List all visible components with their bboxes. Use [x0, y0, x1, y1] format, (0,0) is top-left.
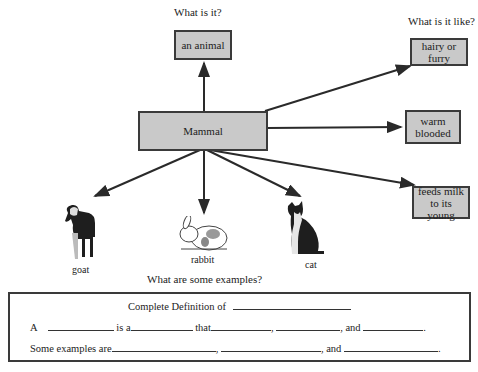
example-label-goat: goat [72, 264, 89, 275]
example-label-cat: cat [305, 259, 317, 270]
blank-example-2[interactable] [221, 342, 321, 352]
definition-that: that [195, 322, 211, 333]
comma: , [271, 322, 274, 333]
example-label-rabbit: rabbit [191, 254, 214, 265]
and-text: , and [321, 343, 341, 354]
property-box-milk: feeds milk to its young [412, 186, 470, 219]
arrow-to-goat [95, 150, 200, 196]
comma: , [216, 343, 219, 354]
goat-icon [62, 203, 98, 263]
and-text: , and [340, 322, 360, 333]
blank-subject[interactable] [48, 321, 114, 331]
period: . [438, 343, 441, 354]
question-what-is-it: What is it? [174, 6, 222, 18]
question-what-is-it-like: What is it like? [408, 15, 475, 27]
question-examples: What are some examples? [147, 273, 262, 285]
period: . [423, 322, 426, 333]
definition-box: Complete Definition of A is a that, , an… [8, 292, 471, 362]
definition-is-a: is a [116, 322, 130, 333]
blank-example-1[interactable] [112, 342, 216, 352]
examples-lead: Some examples are [30, 343, 112, 354]
blank-property-2[interactable] [276, 321, 340, 331]
center-concept-box: Mammal [138, 111, 268, 151]
property-box-hairy: hairy or furry [410, 38, 468, 66]
property-box-warm: warm blooded [405, 110, 461, 144]
blank-example-3[interactable] [344, 342, 438, 352]
rabbit-icon [175, 216, 231, 252]
blank-term[interactable] [233, 300, 351, 310]
blank-category[interactable] [131, 321, 193, 331]
arrow-to-warm [267, 127, 401, 128]
cat-icon [286, 198, 326, 256]
category-box: an animal [174, 30, 232, 60]
blank-property-1[interactable] [211, 321, 271, 331]
arrow-to-hairy [265, 66, 410, 111]
definition-a: A [30, 322, 37, 333]
definition-title: Complete Definition of [128, 301, 226, 312]
blank-property-3[interactable] [363, 321, 423, 331]
